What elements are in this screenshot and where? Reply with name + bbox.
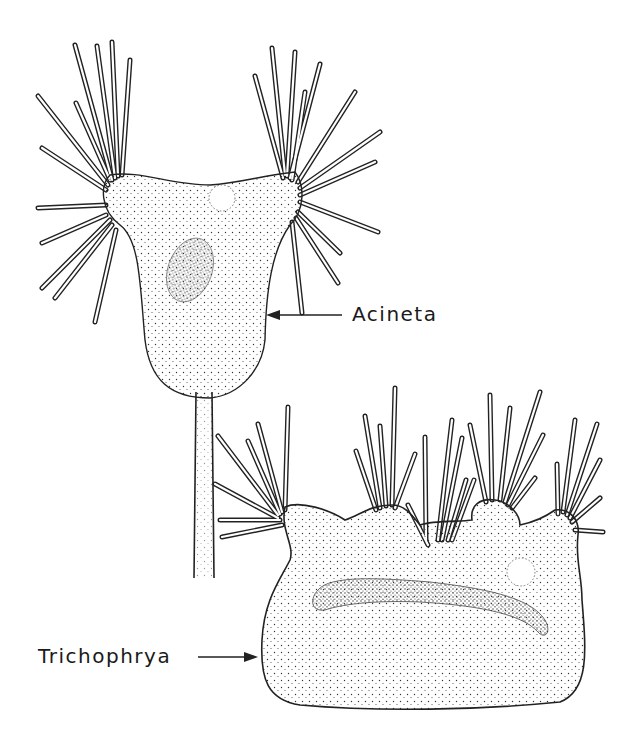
label-trichophrya: Trichophrya [38, 644, 171, 668]
label-acineta: Acineta [352, 302, 437, 326]
trichophrya-vacuole [507, 558, 535, 586]
illustration [0, 0, 634, 744]
acineta-vacuole [209, 185, 235, 211]
trichophrya-body [262, 500, 585, 710]
